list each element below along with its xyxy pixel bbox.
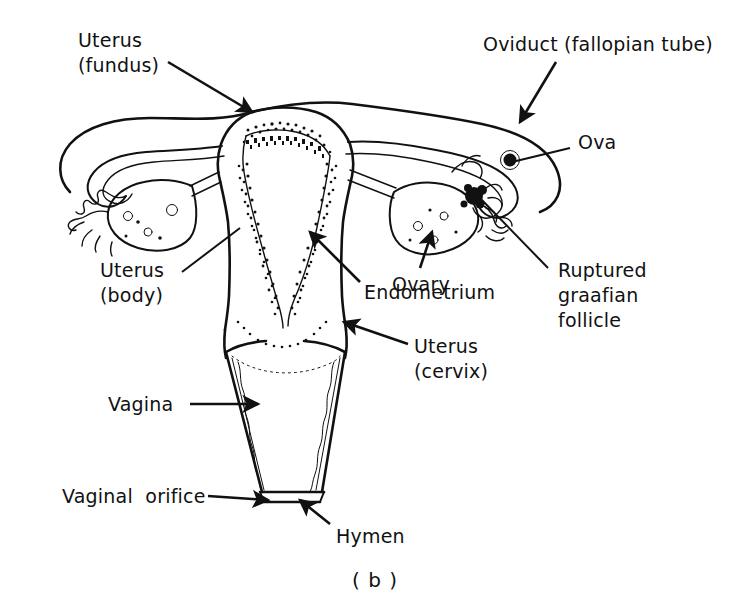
label-ruptured-graafian-follicle-line-0: Ruptured	[558, 258, 647, 283]
leader-ovary	[420, 232, 432, 268]
endometrium-stipple	[237, 122, 338, 349]
label-endometrium-line-0: Endometrium	[364, 280, 495, 305]
label-uterus-cervix: Uterus(cervix)	[414, 334, 488, 384]
figure-caption: ( b )	[352, 568, 398, 592]
label-ova-line-0: Ova	[578, 130, 616, 155]
leader-ruptured-graafian-follicle	[478, 196, 548, 268]
label-ruptured-graafian-follicle: Rupturedgraafianfollicle	[558, 258, 647, 333]
label-uterus-fundus: Uterus(fundus)	[78, 28, 159, 78]
leader-vaginal-orifice	[208, 496, 268, 500]
ovary-left	[108, 180, 196, 251]
label-vagina-line-0: Vagina	[108, 392, 173, 417]
label-uterus-cervix-line-1: (cervix)	[414, 359, 488, 384]
vaginal-orifice	[260, 492, 324, 502]
leader-endometrium	[310, 232, 360, 282]
label-endometrium: Endometrium	[364, 280, 495, 305]
label-ova: Ova	[578, 130, 616, 155]
uterus-outer-wall	[218, 108, 354, 331]
label-uterus-fundus-line-0: Uterus	[78, 28, 159, 53]
label-uterus-fundus-line-1: (fundus)	[78, 53, 159, 78]
leader-hymen	[300, 500, 330, 524]
label-oviduct-line-0: Oviduct (fallopian tube)	[483, 32, 713, 57]
label-oviduct: Oviduct (fallopian tube)	[483, 32, 713, 57]
leader-uterus-fundus	[168, 62, 252, 112]
ovary-right	[390, 182, 478, 254]
figure-root: Uterus(fundus)Oviduct (fallopian tube)Ov…	[0, 0, 746, 614]
label-uterus-body: Uterus(body)	[100, 258, 164, 308]
label-uterus-cervix-line-0: Uterus	[414, 334, 488, 359]
label-hymen: Hymen	[336, 524, 405, 549]
broad-ligament-outline	[60, 102, 560, 212]
vagina	[226, 341, 345, 492]
leader-uterus-cervix	[344, 322, 408, 344]
uterine-cavity	[243, 130, 330, 328]
leader-uterus-body	[182, 228, 240, 272]
oviduct-right	[346, 141, 518, 218]
label-uterus-body-line-1: (body)	[100, 283, 164, 308]
leader-oviduct	[520, 62, 556, 122]
label-vagina: Vagina	[108, 392, 173, 417]
label-vaginal-orifice-line-0: Vaginal orifice	[62, 484, 206, 509]
oviduct-left	[88, 146, 224, 207]
fimbriae-left	[68, 190, 126, 256]
label-ruptured-graafian-follicle-line-1: graafian	[558, 283, 647, 308]
label-vaginal-orifice: Vaginal orifice	[62, 484, 206, 509]
label-hymen-line-0: Hymen	[336, 524, 405, 549]
label-ruptured-graafian-follicle-line-2: follicle	[558, 308, 647, 333]
label-uterus-body-line-0: Uterus	[100, 258, 164, 283]
